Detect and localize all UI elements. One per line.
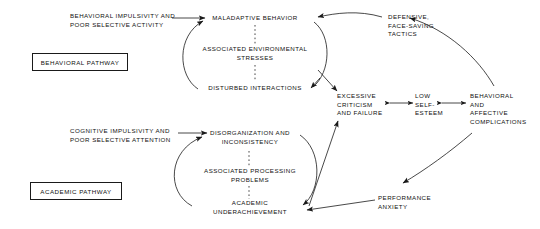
edge-underachievement-to-criticism	[309, 121, 338, 206]
edge-defensive-to-maladaptive	[318, 13, 382, 17]
edge-disorganization-to-underachievement-loop	[300, 135, 317, 205]
node-associated-processing-problems: ASSOCIATED PROCESSING PROBLEMS	[204, 167, 296, 184]
node-excessive-criticism: EXCESSIVE CRITICISM AND FAILURE	[337, 92, 383, 118]
node-defensive-tactics: DEFENSIVE, FACE-SAVING TACTICS	[388, 13, 434, 39]
edge-underachievement-to-disorganization-loop	[174, 137, 202, 206]
edge-performance-anxiety-to-underachievement	[307, 200, 375, 210]
node-behavioral-input: BEHAVIORAL IMPULSIVITY AND POOR SELECTIV…	[70, 12, 175, 29]
edge-junction-to-disturbed	[311, 78, 320, 88]
node-academic-underachievement: ACADEMIC UNDERACHIEVEMENT	[213, 199, 287, 216]
node-maladaptive-behavior: MALADAPTIVE BEHAVIOR	[212, 14, 298, 23]
academic-pathway-box: ACADEMIC PATHWAY	[30, 182, 122, 200]
edge-junction-to-excessive-criticism	[318, 70, 337, 91]
node-performance-anxiety: PERFORMANCE ANXIETY	[378, 194, 431, 211]
behavioral-pathway-label: BEHAVIORAL PATHWAY	[41, 59, 120, 66]
edge-disturbed-to-maladaptive-loop	[183, 21, 203, 89]
node-disorganization: DISORGANIZATION AND INCONSISTENCY	[210, 129, 290, 146]
node-cognitive-input: COGNITIVE IMPULSIVITY AND POOR SELECTIVE…	[70, 127, 171, 144]
node-disturbed-interactions: DISTURBED INTERACTIONS	[208, 84, 301, 93]
behavioral-pathway-box: BEHAVIORAL PATHWAY	[32, 53, 128, 71]
edge-complications-to-performance-anxiety	[403, 133, 472, 183]
node-associated-environmental-stresses: ASSOCIATED ENVIRONMENTAL STRESSES	[203, 45, 308, 62]
diagram-canvas: BEHAVIORAL IMPULSIVITY AND POOR SELECTIV…	[0, 0, 540, 229]
node-behavioral-affective-complications: BEHAVIORAL AND AFFECTIVE COMPLICATIONS	[470, 92, 527, 126]
node-low-self-esteem: LOW SELF- ESTEEM	[415, 92, 443, 118]
academic-pathway-label: ACADEMIC PATHWAY	[40, 188, 111, 195]
